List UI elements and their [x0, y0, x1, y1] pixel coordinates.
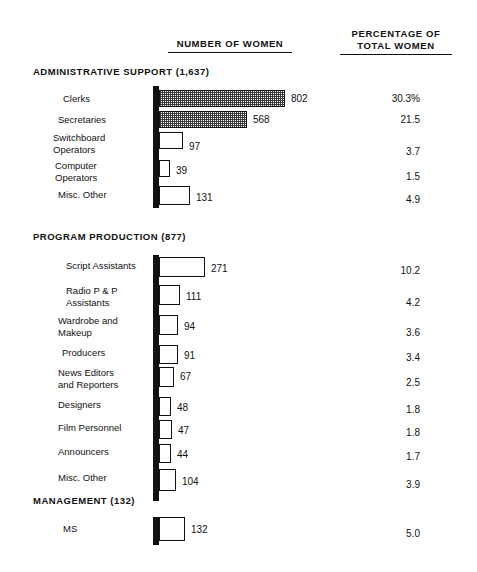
column-headers: NUMBER OF WOMEN PERCENTAGE OF TOTAL WOME…: [0, 0, 477, 62]
column-header-percentage-rule: [340, 54, 452, 55]
bar-category-label: Designers: [58, 399, 101, 411]
bar: [159, 160, 170, 177]
bar-category-label: Switchboard Operators: [53, 132, 105, 155]
bar-category-label: Script Assistants: [66, 260, 136, 272]
bar-category-label: News Editors and Reporters: [58, 367, 118, 390]
column-header-percentage-of-total-women: PERCENTAGE OF TOTAL WOMEN: [340, 28, 452, 55]
column-header-number-rule: [168, 52, 292, 53]
bar-category-label: Radio P & P Assistants: [66, 285, 118, 308]
percentage-value: 3.6: [406, 327, 420, 338]
bar-value-label: 104: [182, 476, 199, 487]
bar-category-label: Producers: [62, 347, 105, 359]
column-header-number-of-women: NUMBER OF WOMEN: [168, 38, 292, 53]
bar: [159, 132, 183, 149]
percentage-value: 2.5: [406, 377, 420, 388]
percentage-value: 1.8: [406, 427, 420, 438]
bar: [159, 469, 176, 491]
bar-category-label: Misc. Other: [58, 189, 107, 201]
bar-category-label: Clerks: [63, 93, 90, 105]
bar-value-label: 131: [196, 192, 213, 203]
section-title: PROGRAM PRODUCTION (877): [33, 231, 186, 242]
bar: [159, 420, 172, 439]
section-title: MANAGEMENT (132): [33, 495, 135, 506]
percentage-value: 4.2: [406, 297, 420, 308]
percentage-value: 1.7: [406, 451, 420, 462]
percentage-value: 4.9: [406, 194, 420, 205]
percentage-value: 30.3%: [392, 93, 420, 104]
percentage-value: 3.7: [406, 146, 420, 157]
bar: [159, 257, 205, 277]
percentage-value: 5.0: [406, 528, 420, 539]
bar-value-label: 48: [177, 402, 188, 413]
bar-value-label: 91: [184, 350, 195, 361]
bar-value-label: 568: [253, 114, 270, 125]
bar: [159, 444, 171, 463]
bar-value-label: 39: [176, 165, 187, 176]
section-title: ADMINISTRATIVE SUPPORT (1,637): [33, 66, 209, 77]
bar-category-label: MS: [63, 523, 77, 535]
bar: [159, 111, 247, 128]
bar-value-label: 94: [184, 321, 195, 332]
bar: [159, 517, 185, 541]
bar-category-label: Announcers: [58, 446, 109, 458]
bar: [159, 90, 285, 107]
bar-category-label: Computer Operators: [55, 160, 97, 183]
percentage-value: 1.5: [406, 171, 420, 182]
column-header-number-of-women-text: NUMBER OF WOMEN: [177, 38, 284, 49]
bar: [159, 186, 190, 205]
bar-category-label: Wardrobe and Makeup: [58, 315, 118, 338]
column-header-percentage-text: PERCENTAGE OF TOTAL WOMEN: [352, 28, 441, 51]
percentage-value: 3.9: [406, 479, 420, 490]
bar-value-label: 132: [191, 524, 208, 535]
percentage-value: 10.2: [401, 265, 420, 276]
percentage-value: 1.8: [406, 404, 420, 415]
bar-value-label: 47: [178, 425, 189, 436]
bar-value-label: 97: [189, 141, 200, 152]
percentage-value: 3.4: [406, 352, 420, 363]
bar: [159, 397, 171, 416]
bar: [159, 367, 174, 387]
bar-value-label: 271: [211, 263, 228, 274]
bar: [159, 285, 180, 305]
bar-category-label: Secretaries: [58, 114, 106, 126]
bar-value-label: 44: [177, 449, 188, 460]
bar-category-label: Misc. Other: [58, 472, 107, 484]
percentage-value: 21.5: [401, 114, 420, 125]
chart-page: { "headers": { "number_of_women": "NUMBE…: [0, 0, 477, 572]
bar-value-label: 802: [291, 93, 308, 104]
bar: [159, 345, 178, 364]
bar-category-label: Film Personnel: [58, 422, 121, 434]
bar: [159, 315, 178, 335]
bar-value-label: 67: [180, 371, 191, 382]
bar-value-label: 111: [186, 291, 201, 302]
